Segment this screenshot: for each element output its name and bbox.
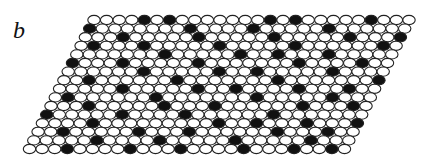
empty-site (187, 144, 199, 153)
empty-site (197, 50, 209, 59)
empty-site (306, 33, 318, 42)
empty-site (100, 15, 112, 24)
empty-site (154, 110, 166, 119)
occupied-site (351, 119, 363, 128)
empty-site (57, 101, 69, 110)
empty-site (121, 50, 133, 59)
empty-site (293, 33, 305, 42)
empty-site (134, 24, 146, 33)
empty-site (40, 136, 52, 145)
empty-site (243, 33, 255, 42)
occupied-site (247, 24, 259, 33)
empty-site (175, 93, 187, 102)
empty-site (339, 119, 351, 128)
occupied-site (83, 76, 95, 85)
empty-site (137, 119, 149, 128)
empty-site (129, 84, 141, 93)
empty-site (259, 76, 271, 85)
empty-site (293, 110, 305, 119)
empty-site (171, 101, 183, 110)
empty-site (352, 41, 364, 50)
empty-site (268, 58, 280, 67)
empty-site (338, 144, 350, 153)
empty-site (201, 41, 213, 50)
empty-site (204, 136, 216, 145)
empty-site (226, 93, 238, 102)
empty-site (225, 119, 237, 128)
empty-site (210, 24, 222, 33)
empty-site (272, 101, 284, 110)
empty-site (218, 33, 230, 42)
empty-site (201, 15, 213, 24)
empty-site (188, 67, 200, 76)
occupied-site (83, 101, 95, 110)
empty-site (221, 127, 233, 136)
occupied-site (289, 15, 301, 24)
empty-site (234, 101, 246, 110)
occupied-site (238, 144, 250, 153)
empty-site (238, 67, 250, 76)
empty-site (86, 144, 98, 153)
empty-site (365, 41, 377, 50)
empty-site (133, 101, 145, 110)
occupied-site (133, 127, 145, 136)
empty-site (79, 84, 91, 93)
occupied-site (323, 24, 335, 33)
empty-site (360, 101, 372, 110)
empty-site (79, 58, 91, 67)
empty-site (66, 110, 78, 119)
empty-site (167, 33, 179, 42)
empty-site (75, 41, 87, 50)
empty-site (208, 127, 220, 136)
empty-site (71, 50, 83, 59)
empty-site (82, 127, 94, 136)
empty-site (175, 119, 187, 128)
empty-site (172, 24, 184, 33)
empty-site (28, 136, 40, 145)
empty-site (137, 144, 149, 153)
empty-site (255, 110, 267, 119)
empty-site (92, 33, 104, 42)
empty-site (356, 84, 368, 93)
empty-site (192, 110, 204, 119)
empty-site (281, 33, 293, 42)
occupied-site (356, 58, 368, 67)
empty-site (347, 127, 359, 136)
empty-site (176, 15, 188, 24)
empty-site (381, 58, 393, 67)
empty-site (188, 93, 200, 102)
empty-site (146, 76, 158, 85)
empty-site (314, 67, 326, 76)
empty-site (305, 84, 317, 93)
empty-site (70, 101, 82, 110)
empty-site (79, 33, 91, 42)
empty-site (313, 144, 325, 153)
occupied-site (163, 15, 175, 24)
empty-site (36, 119, 48, 128)
empty-site (339, 93, 351, 102)
empty-site (175, 67, 187, 76)
empty-site (399, 24, 411, 33)
empty-site (159, 24, 171, 33)
empty-site (352, 93, 364, 102)
occupied-site (183, 127, 195, 136)
empty-site (96, 76, 108, 85)
empty-site (246, 101, 258, 110)
empty-site (339, 67, 351, 76)
empty-site (273, 24, 285, 33)
occupied-site (344, 33, 356, 42)
empty-site (95, 127, 107, 136)
empty-site (317, 136, 329, 145)
empty-site (222, 76, 234, 85)
empty-site (361, 24, 373, 33)
empty-site (302, 41, 314, 50)
empty-site (314, 93, 326, 102)
empty-site (242, 84, 254, 93)
empty-site (179, 84, 191, 93)
empty-site (217, 84, 229, 93)
empty-site (217, 136, 229, 145)
occupied-site (175, 144, 187, 153)
empty-site (125, 67, 137, 76)
empty-site (322, 76, 334, 85)
empty-site (243, 58, 255, 67)
